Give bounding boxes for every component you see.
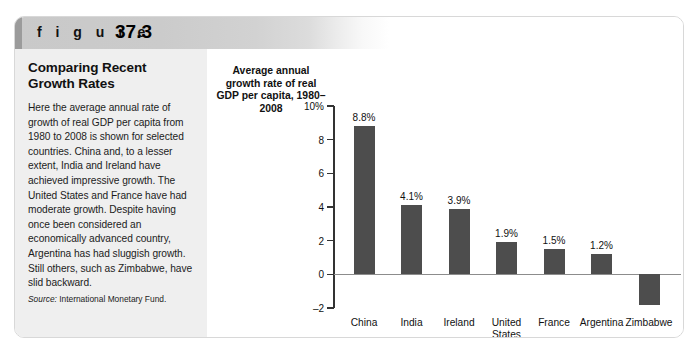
chart-bar — [496, 242, 517, 274]
bar-value-label: –1.8% — [619, 336, 679, 338]
chart-area: Average annual growth rate of real GDP p… — [207, 49, 684, 338]
y-axis-tick-mark — [327, 206, 334, 208]
figure-number: 37.3 — [115, 21, 152, 43]
y-axis-tick-mark — [327, 173, 334, 175]
figure-text-panel: Comparing Recent Growth Rates Here the a… — [15, 49, 207, 338]
figure-header-band: f i g u r e 37.3 — [15, 17, 683, 49]
panel-description-text: Here the average annual rate of growth o… — [28, 101, 194, 291]
chart-bar — [354, 126, 375, 274]
y-axis-tick-mark — [327, 139, 334, 141]
y-axis-tick-label: –2 — [313, 303, 324, 314]
y-axis-tick-label: 10% — [304, 101, 324, 112]
figure-header-accent-bar — [15, 17, 22, 49]
bar-value-label: 3.9% — [429, 195, 489, 206]
chart-bar — [591, 254, 612, 274]
y-axis-tick-mark — [327, 240, 334, 242]
bar-value-label: 8.8% — [334, 112, 394, 123]
category-label: Zimbabwe — [619, 317, 679, 329]
y-axis-tick-label: 6 — [318, 168, 324, 179]
y-axis-tick-label: 8 — [318, 134, 324, 145]
source-value: International Monetary Fund. — [59, 294, 166, 304]
y-axis-tick-label: 2 — [318, 235, 324, 246]
chart-bar — [544, 249, 565, 274]
page-title: Comparing Recent Growth Rates — [28, 60, 194, 92]
y-axis-tick-mark — [327, 274, 334, 276]
bar-value-label: 1.2% — [572, 240, 632, 251]
chart-plot: 10%86420–2 8.8%4.1%3.9%1.9%1.5%1.2%–1.8%… — [333, 89, 681, 329]
figure-card: f i g u r e 37.3 Comparing Recent Growth… — [14, 16, 684, 338]
chart-bar — [449, 209, 470, 275]
source-label: Source: — [28, 294, 57, 304]
y-axis-tick-label: 0 — [318, 269, 324, 280]
chart-bar — [639, 274, 660, 304]
chart-bar — [401, 205, 422, 274]
panel-source-line: Source: International Monetary Fund. — [28, 294, 194, 305]
y-axis-tick-mark — [327, 307, 334, 309]
y-axis-tick-mark — [327, 105, 334, 107]
y-axis-tick-label: 4 — [318, 202, 324, 213]
